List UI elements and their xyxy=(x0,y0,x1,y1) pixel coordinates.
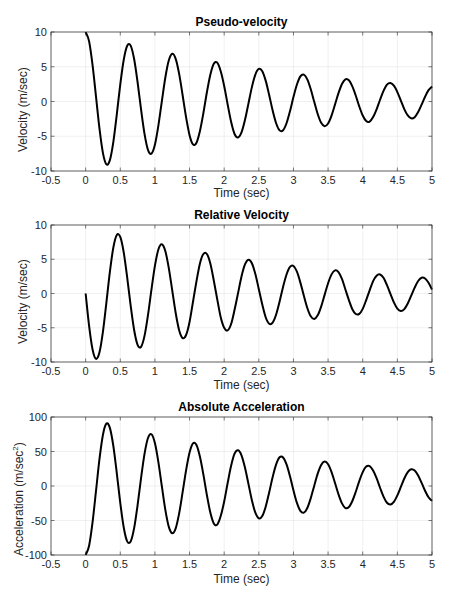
x-tick-label: 0 xyxy=(83,558,89,570)
y-axis-label-tail: ) xyxy=(12,442,26,446)
x-tick-label: 1.5 xyxy=(182,558,197,570)
x-tick-label: 1 xyxy=(152,558,158,570)
y-tick-label: 100 xyxy=(29,411,47,423)
x-tick-label: 2.5 xyxy=(251,558,266,570)
x-axis-label: Time (sec) xyxy=(51,572,432,586)
x-tick-label: 2 xyxy=(221,558,227,570)
y-axis-label-text: Acceleration (m/sec xyxy=(12,451,26,556)
chart-absolute-acceleration: Absolute Acceleration -0.500.511.522.533… xyxy=(0,0,453,597)
x-tick-label: 4 xyxy=(360,558,366,570)
y-tick-label: -50 xyxy=(31,515,47,527)
y-tick-label: -100 xyxy=(25,549,47,561)
x-tick-label: 0.5 xyxy=(113,558,128,570)
x-tick-label: 5 xyxy=(429,558,435,570)
x-tick-label: 3.5 xyxy=(320,558,335,570)
y-axis-label: Acceleration (m/sec2) xyxy=(11,442,26,556)
x-tick-label: 4.5 xyxy=(390,558,405,570)
y-tick-label: 0 xyxy=(41,480,47,492)
x-tick-label: 3 xyxy=(290,558,296,570)
y-tick-label: 50 xyxy=(35,446,47,458)
y-axis-label-superscript: 2 xyxy=(11,446,20,450)
plot-area: -0.500.511.522.533.544.55-100-50050100 xyxy=(0,0,453,597)
